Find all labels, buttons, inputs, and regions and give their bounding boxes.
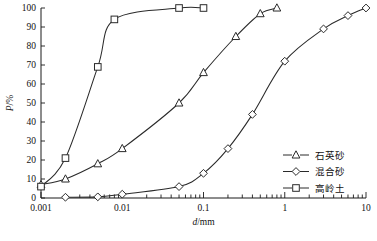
data-point-marker xyxy=(362,4,370,12)
data-point-marker xyxy=(118,144,126,151)
data-point-marker xyxy=(176,5,183,12)
legend: 石英砂混合砂高岭土 xyxy=(283,150,345,194)
y-axis-tick-label: 10 xyxy=(27,174,37,184)
data-point-marker xyxy=(62,155,69,162)
y-axis-title: P/% xyxy=(5,95,15,112)
y-axis-tick-label: 30 xyxy=(27,136,37,146)
legend-marker xyxy=(293,185,300,192)
y-axis-tick-label: 50 xyxy=(27,98,37,108)
y-axis-tick-label: 0 xyxy=(31,193,36,203)
data-point-marker xyxy=(256,10,264,17)
x-axis-tick-label: 0.001 xyxy=(30,203,52,213)
legend-label: 石英砂 xyxy=(315,150,345,161)
data-point-marker xyxy=(175,183,183,191)
legend-marker xyxy=(292,168,300,176)
y-axis-tick-label: 90 xyxy=(27,22,37,32)
y-axis-tick-label: 60 xyxy=(27,79,37,89)
grain-size-distribution-chart: 01020304050607080901000.0010.010.1110d/m… xyxy=(0,0,377,241)
series-line xyxy=(41,8,277,185)
data-point-marker xyxy=(320,25,328,33)
series-triangle xyxy=(37,4,281,188)
y-axis-tick-label: 70 xyxy=(27,60,37,70)
x-axis-tick-label: 1 xyxy=(282,203,287,213)
chart-canvas: 01020304050607080901000.0010.010.1110d/m… xyxy=(0,0,377,241)
data-point-marker xyxy=(111,16,118,23)
series-square xyxy=(38,5,207,190)
data-point-marker xyxy=(344,12,352,20)
x-axis-tick-label: 10 xyxy=(361,203,371,213)
data-point-marker xyxy=(200,5,207,12)
x-axis-tick-label: 0.01 xyxy=(114,203,131,213)
data-point-marker xyxy=(38,183,45,190)
data-point-marker xyxy=(62,193,70,201)
x-axis-tick-label: 0.1 xyxy=(198,203,210,213)
legend-label: 混合砂 xyxy=(315,166,345,177)
x-axis-title: d/mm xyxy=(192,217,215,227)
data-point-marker xyxy=(118,190,126,198)
y-axis-tick-label: 20 xyxy=(27,155,37,165)
data-point-marker xyxy=(273,4,281,11)
y-axis-tick-label: 40 xyxy=(27,117,37,127)
legend-marker xyxy=(292,151,300,158)
y-axis-tick-label: 100 xyxy=(22,3,37,13)
y-axis-tick-label: 80 xyxy=(27,41,37,51)
data-point-marker xyxy=(94,64,101,71)
data-point-marker xyxy=(94,193,102,201)
data-point-marker xyxy=(94,160,102,167)
data-point-marker xyxy=(249,111,257,119)
legend-label: 高岭土 xyxy=(315,183,345,194)
